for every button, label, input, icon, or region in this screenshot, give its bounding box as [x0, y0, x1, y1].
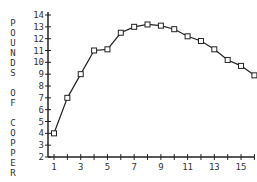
- data-point-marker: [52, 131, 57, 136]
- data-point-marker: [118, 30, 123, 35]
- data-point-marker: [225, 57, 230, 62]
- data-point-marker: [105, 47, 110, 52]
- x-tick-label: 3: [78, 162, 83, 172]
- y-tick-label: 12: [33, 34, 44, 44]
- data-point-marker: [239, 63, 244, 68]
- y-tick-label: 9: [39, 69, 44, 79]
- y-tick-label: 2: [39, 152, 44, 162]
- y-tick-label: 7: [39, 93, 44, 103]
- y-tick-label: 11: [33, 46, 44, 56]
- y-tick-label: 8: [39, 81, 44, 91]
- data-point-marker: [78, 72, 83, 77]
- data-point-marker: [212, 47, 217, 52]
- data-point-marker: [185, 34, 190, 39]
- y-tick-label: 14: [33, 10, 44, 20]
- data-point-marker: [65, 95, 70, 100]
- x-tick-label: 15: [236, 162, 247, 172]
- y-tick-label: 5: [39, 117, 44, 127]
- y-tick-label: 13: [33, 22, 44, 32]
- data-point-marker: [172, 27, 177, 32]
- data-point-marker: [92, 48, 97, 53]
- x-tick-label: 7: [131, 162, 136, 172]
- data-line: [54, 24, 254, 133]
- line-chart: 23456789101112131413579111315: [0, 0, 257, 182]
- data-point-marker: [198, 39, 203, 44]
- data-point-marker: [252, 73, 257, 78]
- data-point-marker: [158, 23, 163, 28]
- x-tick-label: 11: [182, 162, 193, 172]
- x-tick-label: 9: [158, 162, 163, 172]
- y-tick-label: 6: [39, 105, 44, 115]
- y-tick-label: 3: [39, 140, 44, 150]
- data-point-marker: [145, 22, 150, 27]
- x-tick-label: 13: [209, 162, 220, 172]
- y-tick-label: 10: [33, 57, 44, 67]
- x-tick-label: 5: [105, 162, 110, 172]
- data-point-marker: [132, 24, 137, 29]
- y-tick-label: 4: [39, 128, 44, 138]
- x-tick-label: 1: [51, 162, 56, 172]
